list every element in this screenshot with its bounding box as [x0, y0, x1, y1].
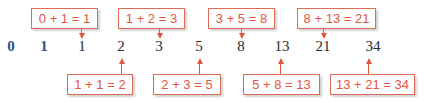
arrow-down-icon — [157, 33, 163, 39]
sequence-term-8: 21 — [308, 38, 338, 55]
arrow-down-icon — [239, 33, 245, 39]
sequence-term-2: 1 — [67, 38, 97, 55]
sequence-term-7: 13 — [267, 38, 297, 55]
arrow-up-line-1 — [121, 63, 122, 74]
arrow-up-line-4 — [368, 63, 369, 74]
top-sum-box-1: 0 + 1 = 1 — [31, 8, 98, 29]
sequence-term-5: 5 — [184, 38, 214, 55]
bottom-sum-box-4: 13 + 21 = 34 — [330, 74, 415, 95]
top-sum-box-2: 1 + 2 = 3 — [118, 8, 185, 29]
sequence-term-4: 3 — [144, 38, 174, 55]
arrow-down-icon — [321, 33, 327, 39]
arrow-down-icon — [79, 33, 85, 39]
bottom-sum-box-2: 2 + 3 = 5 — [153, 74, 221, 95]
sequence-term-1: 1 — [29, 38, 59, 55]
sequence-term-3: 2 — [106, 38, 136, 55]
sequence-term-9: 34 — [358, 38, 388, 55]
top-sum-box-3: 3 + 5 = 8 — [208, 8, 275, 29]
sequence-term-6: 8 — [226, 38, 256, 55]
top-sum-box-4: 8 + 13 = 21 — [297, 8, 376, 29]
bottom-sum-box-1: 1 + 1 = 2 — [67, 74, 133, 95]
arrow-up-line-2 — [199, 63, 200, 74]
bottom-sum-box-3: 5 + 8 = 13 — [243, 74, 320, 95]
sequence-term-0: 0 — [0, 38, 26, 55]
arrow-up-line-3 — [280, 63, 281, 74]
